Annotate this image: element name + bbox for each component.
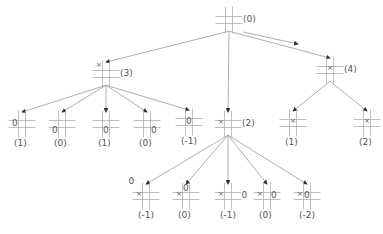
x-mark: × — [176, 191, 182, 198]
edge-arrow — [228, 31, 229, 112]
o-mark: 0 — [151, 126, 157, 135]
x-mark: × — [290, 118, 296, 125]
edge-arrow — [229, 31, 330, 58]
o-mark: 0 — [12, 119, 18, 128]
node-score-label: (1) — [285, 137, 298, 147]
x-mark: × — [364, 118, 370, 125]
edge-arrow — [228, 135, 267, 184]
tree-boards — [9, 7, 381, 210]
board-root — [216, 7, 243, 34]
o-mark: 0 — [242, 191, 248, 200]
node-score-label: (4) — [344, 64, 357, 74]
node-score-label: (0) — [54, 138, 67, 148]
node-score-label: (0) — [139, 138, 152, 148]
edge-arrow — [62, 85, 106, 112]
node-score-label: (1) — [14, 138, 27, 148]
edge-arrow — [106, 85, 189, 110]
node-score-label: (2) — [242, 118, 255, 128]
node-score-label: (0) — [259, 210, 272, 220]
tree-edges — [22, 31, 367, 184]
x-mark: × — [96, 62, 102, 69]
o-mark: 0 — [271, 191, 277, 200]
node-score-label: (-1) — [181, 136, 197, 146]
o-mark: 0 — [304, 191, 310, 200]
node-score-label: (2) — [359, 137, 372, 147]
x-mark: × — [257, 191, 263, 198]
edge-arrow — [22, 85, 106, 112]
x-mark: × — [136, 191, 142, 198]
node-score-label: (-1) — [138, 210, 154, 220]
edge-arrow — [106, 85, 147, 112]
x-mark: × — [218, 191, 224, 198]
o-mark: 0 — [186, 117, 192, 126]
node-score-label: (0) — [178, 210, 191, 220]
node-score-label: (-2) — [299, 210, 315, 220]
x-mark: × — [218, 119, 224, 126]
edge-arrow — [330, 81, 367, 111]
node-score-label: (1) — [98, 138, 111, 148]
o-mark: 0 — [103, 126, 109, 135]
node-score-label: (3) — [120, 68, 133, 78]
o-mark: 0 — [129, 177, 135, 186]
node-score-label: (0) — [243, 14, 256, 24]
o-mark: 0 — [52, 126, 58, 135]
o-mark: 0 — [183, 184, 189, 193]
node-score-label: (-1) — [220, 210, 236, 220]
edge-arrow — [106, 31, 229, 62]
edge-arrow — [293, 81, 330, 111]
x-mark: × — [297, 191, 303, 198]
x-mark: × — [327, 65, 333, 72]
